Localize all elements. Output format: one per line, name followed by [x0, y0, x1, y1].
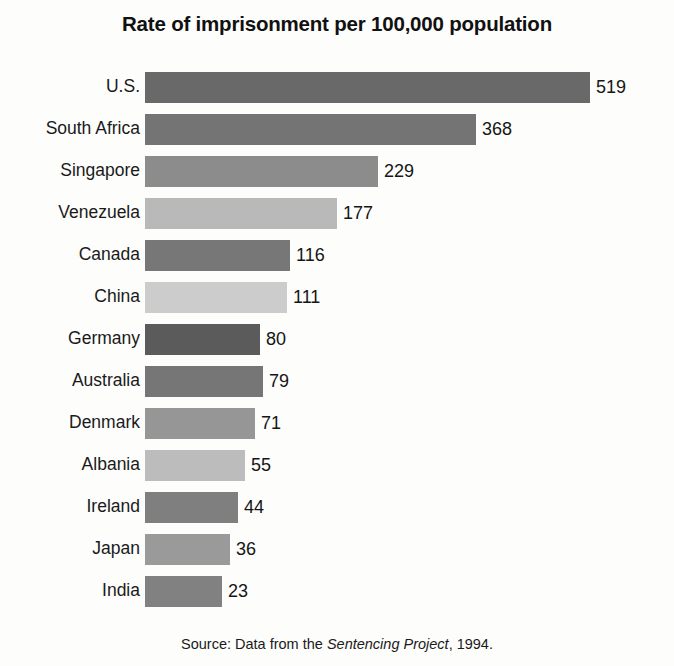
value-label: 519	[596, 72, 626, 103]
value-label: 116	[296, 240, 325, 271]
bar-row: Australia79	[0, 364, 674, 406]
bar-row: Singapore229	[0, 154, 674, 196]
category-label: Albania	[82, 448, 140, 480]
bar	[145, 240, 290, 271]
category-label: Germany	[68, 322, 140, 354]
value-label: 23	[228, 576, 248, 607]
value-label: 36	[236, 534, 256, 565]
bar	[145, 492, 238, 523]
value-label: 111	[293, 282, 320, 313]
value-label: 55	[251, 450, 271, 481]
bar	[145, 534, 230, 565]
bar-row: India23	[0, 574, 674, 616]
bar-row: South Africa368	[0, 112, 674, 154]
bar	[145, 576, 222, 607]
category-label: Canada	[79, 238, 140, 270]
bar-chart-plot-area: U.S.519South Africa368Singapore229Venezu…	[0, 70, 674, 616]
category-label: Ireland	[86, 490, 140, 522]
category-label: Denmark	[69, 406, 140, 438]
bar	[145, 72, 590, 103]
value-label: 229	[384, 156, 414, 187]
bar	[145, 114, 476, 145]
value-label: 44	[244, 492, 264, 523]
bar-row: Denmark71	[0, 406, 674, 448]
bar-row: Venezuela177	[0, 196, 674, 238]
bar	[145, 408, 255, 439]
bar-row: U.S.519	[0, 70, 674, 112]
bar	[145, 450, 245, 481]
bar-row: Canada116	[0, 238, 674, 280]
chart-page: Rate of imprisonment per 100,000 populat…	[0, 0, 674, 666]
category-label: Japan	[92, 532, 140, 564]
category-label: China	[94, 280, 140, 312]
bar	[145, 282, 287, 313]
value-label: 79	[269, 366, 289, 397]
category-label: Australia	[72, 364, 140, 396]
bar	[145, 156, 378, 187]
category-label: India	[102, 574, 140, 606]
category-label: U.S.	[106, 70, 140, 102]
bar	[145, 198, 337, 229]
value-label: 71	[261, 408, 281, 439]
bar	[145, 324, 260, 355]
category-label: South Africa	[46, 112, 140, 144]
source-suffix: , 1994.	[449, 636, 493, 652]
bar-row: China111	[0, 280, 674, 322]
chart-title: Rate of imprisonment per 100,000 populat…	[0, 12, 674, 36]
category-label: Venezuela	[58, 196, 140, 228]
value-label: 368	[482, 114, 512, 145]
source-publication: Sentencing Project	[327, 636, 449, 652]
bar-row: Japan36	[0, 532, 674, 574]
bar	[145, 366, 263, 397]
category-label: Singapore	[60, 154, 140, 186]
value-label: 80	[266, 324, 286, 355]
source-prefix: Source: Data from the	[181, 636, 327, 652]
source-note: Source: Data from the Sentencing Project…	[0, 636, 674, 652]
value-label: 177	[343, 198, 373, 229]
bar-row: Albania55	[0, 448, 674, 490]
bar-row: Germany80	[0, 322, 674, 364]
bar-row: Ireland44	[0, 490, 674, 532]
